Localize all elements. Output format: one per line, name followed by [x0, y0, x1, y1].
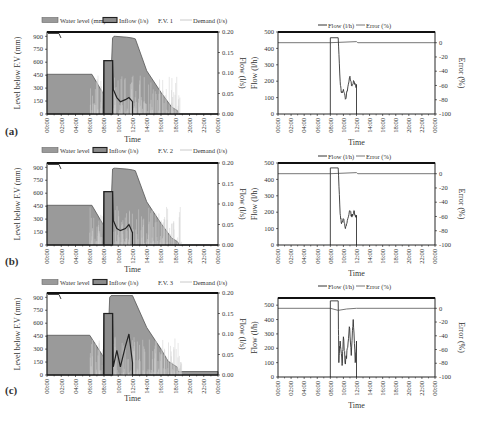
y2-tick-label: -80: [439, 227, 448, 234]
x-tick-label: 04:00: [72, 379, 79, 394]
y2-tick-label: -60: [439, 213, 448, 220]
x-tick-label: 02:00: [287, 249, 294, 264]
y-tick-label: 150: [33, 228, 43, 235]
y-tick-label: 300: [264, 61, 274, 68]
inflow-block: [104, 314, 113, 376]
y-tick-label: 200: [264, 208, 274, 215]
y-axis-label: Level below F.V (mm): [13, 167, 22, 240]
x-tick-label: 00:00: [214, 379, 221, 394]
x-tick-label: 06:00: [86, 249, 93, 264]
error-series: [278, 42, 435, 43]
x-tick-label: 20:00: [186, 118, 193, 133]
x-tick-label: 08:00: [100, 118, 107, 133]
y-tick-label: 750: [33, 45, 43, 52]
flow-series: [330, 38, 356, 114]
panel-c: 01503004506007509000.000.050.100.150.200…: [5, 279, 466, 411]
x-tick-label: 14:00: [366, 118, 373, 133]
y2-tick-label: 0.00: [222, 371, 233, 378]
legend-label-error: Error (%): [366, 153, 391, 161]
x-tick-label: 02:00: [58, 379, 65, 394]
x-axis-label: Time: [348, 138, 365, 147]
legend-label-water-level: Water level: [60, 279, 90, 286]
fv-marker: [48, 295, 61, 300]
error-series: [278, 173, 435, 174]
y-axis-label: Level below F.V (mm): [13, 36, 22, 109]
y-tick-label: 0: [271, 110, 274, 117]
y-tick-label: 400: [264, 176, 274, 183]
x-tick-label: 10:00: [115, 379, 122, 394]
x-tick-label: 06:00: [314, 118, 321, 133]
y2-tick-label: -60: [439, 346, 448, 353]
x-tick-label: 16:00: [157, 379, 164, 394]
x-axis-label: Time: [348, 269, 365, 278]
legend-label-flow: Flow (l/h): [328, 22, 354, 30]
y2-tick-label: -80: [439, 359, 448, 366]
y2-axis-label: Error (%): [457, 189, 466, 220]
x-tick-label: 10:00: [340, 249, 347, 264]
x-tick-label: 20:00: [405, 381, 412, 396]
y2-tick-label: 0.20: [222, 289, 233, 296]
x-tick-label: 02:00: [58, 249, 65, 264]
level-chart-a: 01503004506007509000.000.050.100.150.200…: [5, 17, 247, 145]
legend-label-demand: Demand (l/s): [193, 279, 227, 287]
x-tick-label: 22:00: [418, 381, 425, 396]
y2-tick-label: 0.15: [222, 49, 233, 56]
x-axis-label: Time: [348, 401, 365, 410]
y-tick-label: 900: [33, 33, 43, 40]
x-tick-label: 14:00: [143, 118, 150, 133]
x-tick-label: 16:00: [379, 249, 386, 264]
x-tick-label: 02:00: [287, 118, 294, 133]
x-tick-label: 14:00: [143, 379, 150, 394]
y-tick-label: 600: [33, 58, 43, 65]
x-tick-label: 14:00: [366, 381, 373, 396]
x-tick-label: 08:00: [327, 381, 334, 396]
y2-tick-label: -20: [439, 184, 448, 191]
panel-label: (a): [5, 125, 18, 138]
y-tick-label: 0: [271, 373, 274, 380]
y-tick-label: 600: [33, 189, 43, 196]
panel-label: (c): [5, 384, 18, 397]
x-tick-label: 22:00: [418, 249, 425, 264]
y-tick-label: 750: [33, 176, 43, 183]
y-tick-label: 0: [40, 110, 43, 117]
y2-tick-label: 0.15: [222, 310, 233, 317]
figure-canvas: 01503004506007509000.000.050.100.150.200…: [0, 0, 480, 424]
x-tick-label: 00:00: [274, 381, 281, 396]
y2-tick-label: -20: [439, 318, 448, 325]
x-tick-label: 16:00: [379, 381, 386, 396]
y2-axis-label: Error (%): [457, 322, 466, 353]
x-tick-label: 12:00: [353, 249, 360, 264]
legend-label-flow: Flow (l/h): [328, 153, 354, 161]
legend-swatch-water-level: [42, 148, 58, 153]
legend: Flow (l/h)Error (%): [318, 283, 391, 291]
x-tick-label: 20:00: [186, 249, 193, 264]
y-tick-label: 450: [33, 71, 43, 78]
y2-axis-label: Flow (l/s): [238, 318, 247, 350]
x-tick-label: 00:00: [431, 249, 438, 264]
y-tick-label: 100: [264, 359, 274, 366]
x-tick-label: 20:00: [405, 118, 412, 133]
x-tick-label: 08:00: [100, 379, 107, 394]
x-tick-label: 12:00: [129, 118, 136, 133]
panel-a: 01503004506007509000.000.050.100.150.200…: [5, 17, 466, 148]
y-tick-label: 0: [40, 371, 43, 378]
legend-swatch-inflow: [93, 148, 107, 153]
x-tick-label: 00:00: [43, 249, 50, 264]
legend-swatch-inflow: [93, 280, 107, 285]
x-axis-label: Time: [124, 135, 141, 144]
legend-swatch-water-level: [42, 280, 58, 285]
legend-label-water-level: Water level: [60, 147, 90, 154]
x-tick-label: 10:00: [340, 118, 347, 133]
legend-swatch-water-level: [42, 18, 58, 23]
x-tick-label: 10:00: [340, 381, 347, 396]
x-tick-label: 12:00: [353, 381, 360, 396]
y-tick-label: 500: [264, 301, 274, 308]
x-tick-label: 06:00: [86, 118, 93, 133]
y2-tick-label: -40: [439, 198, 448, 205]
legend-swatch-inflow: [103, 18, 117, 23]
legend-label-flow: Flow (l/h): [328, 283, 354, 291]
legend-label-fv: F.V. 2: [158, 147, 173, 154]
x-tick-label: 06:00: [86, 379, 93, 394]
y2-tick-label: 0: [439, 39, 442, 46]
legend: Water levelInflow (l/s)F.V. 3Demand (l/s…: [42, 279, 227, 287]
